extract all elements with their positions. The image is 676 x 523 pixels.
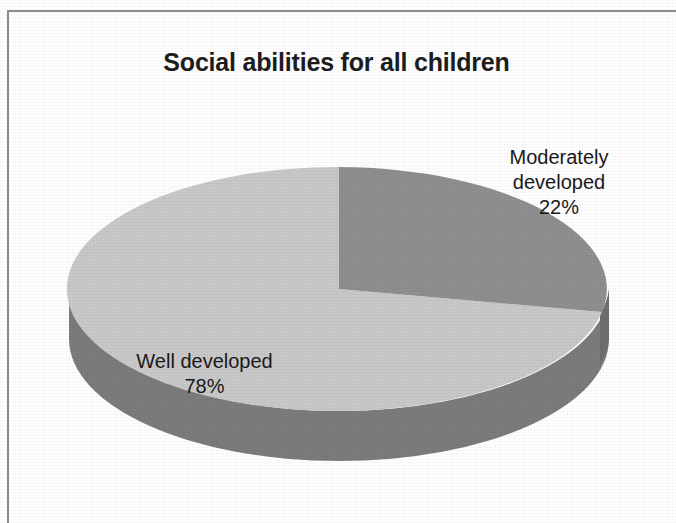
pie-chart: Social abilities for all children Modera… (9, 12, 676, 523)
pie-label-moderately-developed-name: Moderately developed (510, 146, 609, 193)
pie-label-well-developed: Well developed 78% (97, 324, 312, 424)
pie-label-well-developed-name: Well developed (136, 350, 272, 372)
chart-title: Social abilities for all children (9, 48, 664, 77)
pie-label-moderately-developed: Moderately developed 22% (464, 120, 654, 245)
pie-label-moderately-developed-value: 22% (464, 195, 654, 220)
pie-label-well-developed-value: 78% (97, 374, 312, 399)
